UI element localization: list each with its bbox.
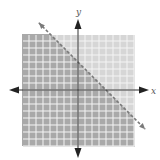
y-axis-arrow-down-icon xyxy=(75,148,82,158)
y-axis-label: y xyxy=(75,7,82,17)
x-axis-label: x xyxy=(151,86,156,96)
inequality-graph: x y xyxy=(0,0,160,160)
boundary-arrow-bottom xyxy=(139,123,145,129)
x-axis-arrow-right-icon xyxy=(139,87,149,94)
y-axis-arrow-up-icon xyxy=(75,19,82,29)
x-axis-arrow-left-icon xyxy=(9,87,19,94)
